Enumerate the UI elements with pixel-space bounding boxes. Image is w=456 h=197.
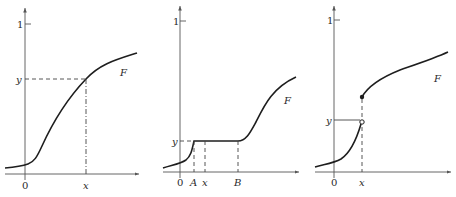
curve-label: F — [433, 73, 442, 84]
closed-point — [360, 95, 364, 99]
y-label: y — [15, 74, 22, 85]
tick-one-label: 1 — [17, 19, 23, 30]
y-label: y — [171, 136, 178, 147]
b-label: B — [233, 177, 241, 188]
a-label: A — [189, 177, 197, 188]
origin-label: 0 — [177, 177, 183, 188]
origin-label: 0 — [331, 177, 337, 188]
open-point — [360, 120, 364, 124]
cdf-figure: 1 y 0 x F 1 y 0 A x B F 1 y — [0, 0, 456, 197]
curve-label: F — [283, 95, 292, 106]
cdf-curve-lower — [315, 124, 361, 167]
tick-one-label: 1 — [173, 16, 179, 27]
x-label: x — [359, 177, 365, 188]
panel-continuous-cdf: 1 y 0 x F — [5, 8, 139, 191]
curve-label: F — [119, 67, 128, 78]
panel-flat-segment-cdf: 1 y 0 A x B F — [163, 6, 299, 188]
x-label: x — [83, 180, 89, 191]
panel-jump-cdf: 1 y 0 x F — [315, 6, 451, 188]
y-label: y — [325, 115, 332, 126]
tick-one-label: 1 — [327, 15, 333, 26]
cdf-curve — [163, 77, 296, 168]
x-label: x — [202, 177, 208, 188]
origin-label: 0 — [22, 180, 28, 191]
